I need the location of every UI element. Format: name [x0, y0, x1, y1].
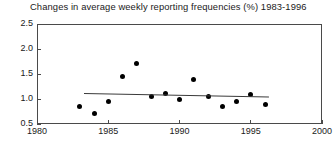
- data-point: [177, 97, 182, 102]
- x-tick-mark: [108, 120, 109, 124]
- y-tick-label: 1.0: [4, 93, 33, 103]
- y-tick-mark: [37, 74, 41, 75]
- plot-area-frame: [37, 24, 322, 124]
- data-point: [120, 74, 125, 79]
- x-tick-mark: [322, 120, 323, 124]
- data-point: [92, 111, 97, 116]
- chart-container: Changes in average weekly reporting freq…: [0, 0, 335, 155]
- data-point: [263, 102, 268, 107]
- x-tick-mark: [250, 120, 251, 124]
- x-tick-label: 2000: [306, 126, 335, 136]
- data-point: [191, 77, 196, 82]
- y-tick-mark: [37, 124, 41, 125]
- y-tick-mark: [37, 99, 41, 100]
- y-tick-label: 1.5: [4, 68, 33, 78]
- x-tick-mark: [179, 120, 180, 124]
- x-tick-mark: [37, 120, 38, 124]
- y-tick-mark: [37, 49, 41, 50]
- x-tick-label: 1990: [164, 126, 196, 136]
- data-point: [220, 104, 225, 109]
- y-tick-mark: [37, 24, 41, 25]
- y-tick-label: 2.5: [4, 18, 33, 28]
- x-tick-label: 1995: [235, 126, 267, 136]
- data-point: [106, 99, 111, 104]
- x-tick-label: 1985: [92, 126, 124, 136]
- y-tick-label: 2.0: [4, 43, 33, 53]
- x-tick-label: 1980: [21, 126, 53, 136]
- chart-title: Changes in average weekly reporting freq…: [30, 1, 307, 12]
- data-point: [134, 61, 139, 66]
- data-point: [234, 99, 239, 104]
